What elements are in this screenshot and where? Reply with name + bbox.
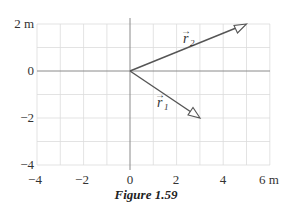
y-tick-0: 0 <box>28 63 35 78</box>
x-tick-6: 6 m <box>259 172 279 187</box>
label-r1: r 1 → <box>155 89 169 112</box>
svg-text:2: 2 <box>190 38 195 48</box>
svg-text:→: → <box>155 89 165 100</box>
y-tick-2: 2 m <box>14 16 34 31</box>
vector-diagram: r 2 → r 1 → 2 m 0 −2 −4 −4 −2 0 2 4 6 m <box>0 0 292 216</box>
label-r2: r 2 → <box>181 25 195 48</box>
x-tick-4: 4 <box>220 172 227 187</box>
svg-text:→: → <box>181 25 191 36</box>
grid <box>37 24 270 165</box>
y-tick-neg4: −4 <box>20 157 34 172</box>
y-tick-neg2: −2 <box>20 110 34 125</box>
svg-text:1: 1 <box>164 102 169 112</box>
x-tick-2: 2 <box>173 172 180 187</box>
figure-caption: Figure 1.59 <box>0 187 292 203</box>
x-tick-neg4: −4 <box>28 172 42 187</box>
x-tick-0: 0 <box>127 172 134 187</box>
x-tick-neg2: −2 <box>75 172 89 187</box>
